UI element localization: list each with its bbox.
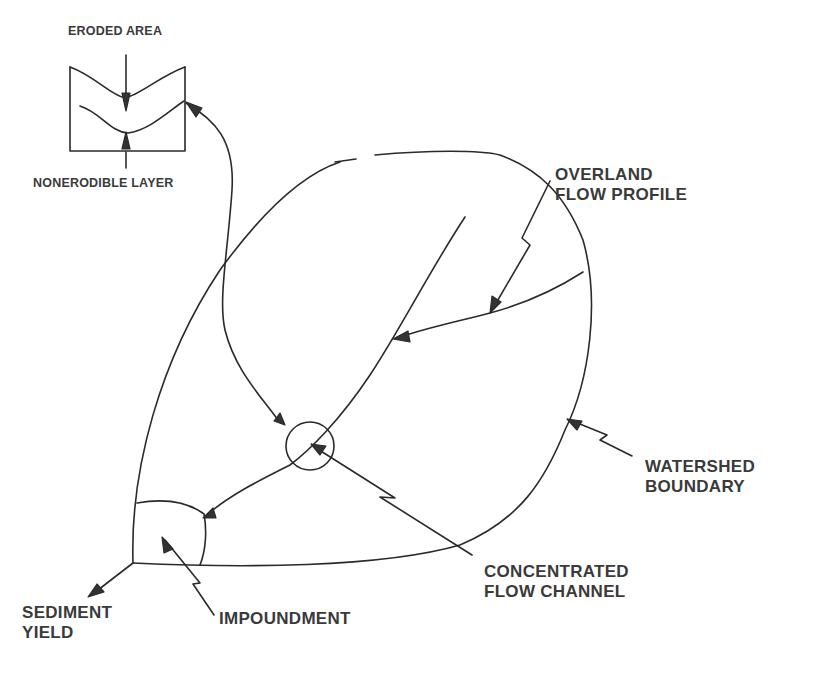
watershed-boundary-label: WATERSHED BOUNDARY [645,457,755,496]
overland-leader-line [492,181,550,310]
concentrated-flow-label: CONCENTRATED FLOW CHANNEL [484,562,629,601]
sediment-yield-label: SEDIMENT YIELD [22,603,112,642]
watershed-leader-arrowhead-icon [567,419,582,430]
impoundment-arrowhead-icon [162,537,173,553]
inset-arrowhead-icon [186,102,202,117]
circle-arrowhead-icon [274,413,285,425]
impoundment-leader-line [165,540,214,615]
nonerodible-arrowhead-icon [122,132,130,149]
watershed-boundary-label-line-1: WATERSHED [645,457,755,477]
eroded-area-arrowhead-icon [122,93,130,111]
watershed-boundary-right [133,151,591,565]
nonerodible-layer-label: NONERODIBLE LAYER [33,176,173,190]
sediment-yield-label-line-1: SEDIMENT [22,603,112,623]
junction-circle [286,422,334,470]
impoundment-outline [137,501,206,565]
watershed-diagram [0,0,813,679]
nonerodible-surface-line [80,101,184,133]
overland-flow-label: OVERLAND FLOW PROFILE [555,165,687,204]
concentrated-flow-channel-line [208,217,465,514]
sediment-yield-arrowhead-icon [88,584,104,597]
erosion-inset [70,55,185,168]
inset-connector-line [186,103,278,420]
concentrated-flow-label-line-1: CONCENTRATED [484,562,629,582]
sediment-yield-line [98,563,133,590]
eroded-area-label: ERODED AREA [68,24,162,38]
impoundment-label: IMPOUNDMENT [219,609,351,629]
overland-flow-label-line-1: OVERLAND [555,165,687,185]
watershed-boundary-left [133,162,340,563]
concentrated-leader-line [316,448,472,555]
watershed-boundary-gap [335,159,356,162]
overland-flow-label-line-2: FLOW PROFILE [555,185,687,205]
watershed-boundary-label-line-2: BOUNDARY [645,477,755,497]
concentrated-flow-label-line-2: FLOW CHANNEL [484,582,629,602]
sediment-yield-label-line-2: YIELD [22,623,112,643]
